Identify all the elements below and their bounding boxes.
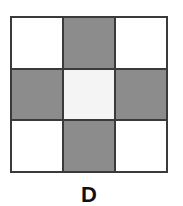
grid-cell-r3c2 [63, 120, 115, 172]
option-label: D [0, 184, 178, 206]
grid-cell-r1c2 [63, 17, 115, 69]
grid-cell-r2c2 [63, 69, 115, 121]
grid-cell-r1c1 [11, 17, 63, 69]
grid-cell-r2c1 [11, 69, 63, 121]
pattern-grid [10, 16, 168, 173]
grid-cell-r1c3 [115, 17, 167, 69]
grid-cell-r3c1 [11, 120, 63, 172]
grid-cell-r3c3 [115, 120, 167, 172]
grid-cell-r2c3 [115, 69, 167, 121]
